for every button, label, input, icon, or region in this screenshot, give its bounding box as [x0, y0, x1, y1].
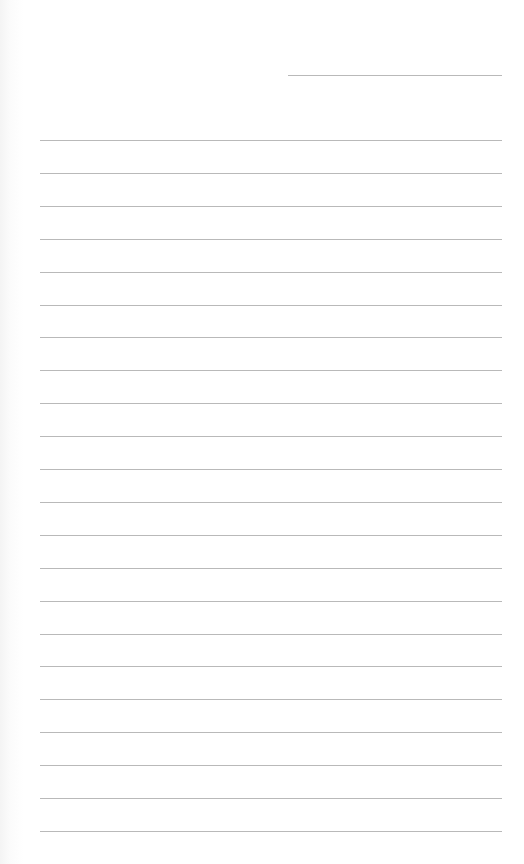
- ruled-line: [40, 140, 502, 141]
- ruled-line: [40, 305, 502, 306]
- ruled-line: [40, 436, 502, 437]
- ruled-line: [40, 469, 502, 470]
- lined-paper-page: [0, 0, 524, 864]
- ruled-line: [40, 173, 502, 174]
- ruled-line: [40, 699, 502, 700]
- ruled-line: [40, 403, 502, 404]
- ruled-line: [40, 601, 502, 602]
- ruled-line: [40, 568, 502, 569]
- ruled-line: [40, 535, 502, 536]
- ruled-line: [40, 798, 502, 799]
- ruled-line: [40, 206, 502, 207]
- ruled-line: [40, 502, 502, 503]
- ruled-line: [40, 634, 502, 635]
- ruled-line: [40, 666, 502, 667]
- ruled-line: [40, 239, 502, 240]
- ruled-line: [40, 831, 502, 832]
- header-signature-line: [288, 75, 502, 76]
- ruled-line: [40, 337, 502, 338]
- ruled-line: [40, 732, 502, 733]
- ruled-line: [40, 272, 502, 273]
- ruled-line: [40, 765, 502, 766]
- ruled-line: [40, 370, 502, 371]
